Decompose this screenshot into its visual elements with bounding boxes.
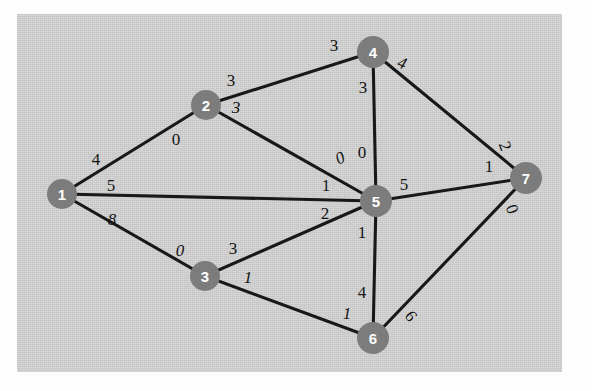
graph-node-7[interactable]: 7 xyxy=(510,162,542,194)
edge-label-1-2-near-1: 4 xyxy=(92,151,101,168)
graph-edge-2-5 xyxy=(206,105,376,201)
graph-node-2[interactable]: 2 xyxy=(191,90,221,120)
graph-edges xyxy=(62,52,526,338)
graph-edge-1-5 xyxy=(62,194,376,201)
edge-label-1-3-near-1: 8 xyxy=(108,211,117,228)
graph-node-label-5: 5 xyxy=(372,193,380,210)
graph-node-5[interactable]: 5 xyxy=(360,185,392,217)
graph-edge-4-5 xyxy=(373,52,376,201)
graph-edge-5-6 xyxy=(373,201,376,338)
figure-canvas: 1234567 405180333030425132111460 xyxy=(0,0,592,391)
edge-label-2-4-near-4: 3 xyxy=(330,37,339,54)
graph-edge-1-3 xyxy=(62,194,205,276)
edge-label-1-2-near-2: 0 xyxy=(172,131,181,148)
graph-node-label-4: 4 xyxy=(369,44,378,61)
edge-label-5-6-near-6: 4 xyxy=(358,284,367,301)
graph-node-label-1: 1 xyxy=(58,186,66,203)
edge-label-1-3-near-3: 0 xyxy=(176,242,185,259)
graph-node-label-3: 3 xyxy=(201,268,209,285)
edge-label-3-6-near-6: 1 xyxy=(343,305,352,322)
graph-edge-1-2 xyxy=(62,105,206,194)
edge-label-3-6-near-3: 1 xyxy=(244,269,253,286)
edge-label-4-5-near-5: 0 xyxy=(358,144,367,161)
graph-node-label-7: 7 xyxy=(522,170,530,187)
graph-node-label-6: 6 xyxy=(369,330,377,347)
graph-node-4[interactable]: 4 xyxy=(357,36,389,68)
edge-label-4-5-near-4: 3 xyxy=(359,79,368,96)
edge-label-5-6-near-5: 1 xyxy=(358,224,367,241)
edge-label-5-7-near-7: 1 xyxy=(485,158,494,175)
graph-node-1[interactable]: 1 xyxy=(47,179,77,209)
edge-label-1-5-near-1: 5 xyxy=(107,177,116,194)
edge-label-2-5-near-2: 3 xyxy=(232,99,241,116)
graph-node-label-2: 2 xyxy=(202,97,210,114)
edge-label-2-4-near-2: 3 xyxy=(227,72,236,89)
edge-label-3-5-near-3: 3 xyxy=(229,240,238,257)
graph-node-6[interactable]: 6 xyxy=(357,322,389,354)
edge-label-1-5-near-5: 1 xyxy=(322,177,331,194)
graph-node-3[interactable]: 3 xyxy=(190,261,220,291)
graph-svg: 1234567 xyxy=(0,0,592,391)
edge-label-5-7-near-5: 5 xyxy=(400,176,409,193)
edge-label-3-5-near-5: 2 xyxy=(321,205,330,222)
graph-edge-5-7 xyxy=(376,178,526,201)
graph-edge-6-7 xyxy=(373,178,526,338)
